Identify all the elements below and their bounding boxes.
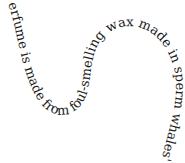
curved-sentence: erfume is made from foul-smelling wax ma… — [0, 0, 185, 163]
curved-sentence-path: erfume is made from foul-smelling wax ma… — [0, 0, 185, 163]
curved-text-canvas: erfume is made from foul-smelling wax ma… — [0, 0, 185, 163]
